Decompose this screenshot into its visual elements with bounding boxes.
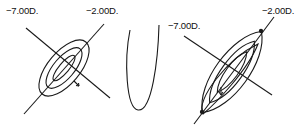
middle-ellipse	[40, 42, 88, 94]
label-right-minus-2: −2.00D.	[262, 5, 294, 16]
arrow-icon	[74, 81, 79, 86]
label-left-minus-2: −2.00D.	[86, 5, 118, 16]
meridian-line-minus-2	[24, 24, 104, 114]
astigmatism-diagram	[0, 0, 308, 125]
left-figure	[24, 24, 110, 114]
label-left-minus-7: −7.00D.	[6, 5, 38, 16]
focal-curve	[127, 25, 159, 110]
label-right-minus-7: −7.00D.	[168, 20, 200, 31]
right-figure	[184, 17, 275, 124]
middle-figure	[127, 25, 159, 110]
outer-ellipse	[202, 44, 258, 114]
